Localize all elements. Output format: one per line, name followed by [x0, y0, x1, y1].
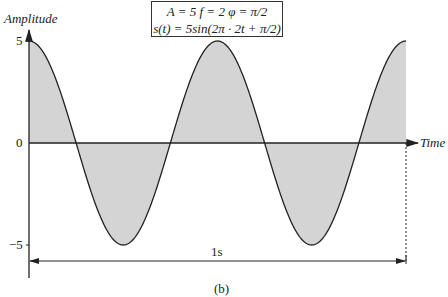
duration-label: 1s — [211, 244, 223, 260]
figure-caption: (b) — [214, 281, 229, 297]
formula-box: A = 5 f = 2 φ = π/2 s(t) = 5sin(2π · 2t … — [151, 1, 283, 37]
y-tick-label-neg5: −5 — [9, 237, 23, 253]
y-axis-label: Amplitude — [4, 11, 57, 27]
y-tick-label-5: 5 — [16, 33, 23, 49]
formula-params: A = 5 f = 2 φ = π/2 — [152, 3, 282, 20]
sine-wave-chart — [0, 0, 448, 297]
formula-equation: s(t) = 5sin(2π · 2t + π/2) — [152, 20, 282, 37]
y-tick-label-0: 0 — [16, 135, 23, 151]
x-axis-label: Time — [420, 135, 445, 151]
